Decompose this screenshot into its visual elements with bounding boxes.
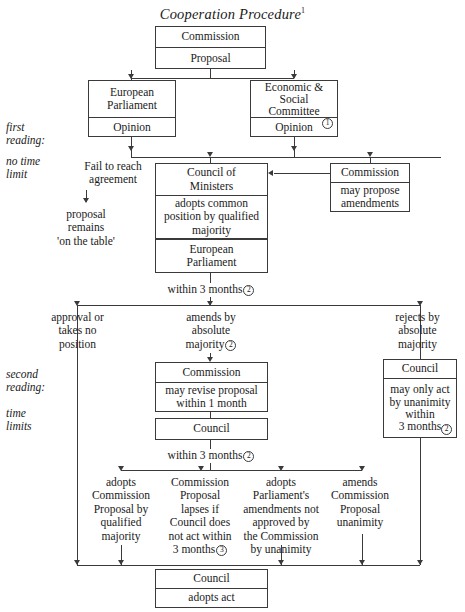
box-council-unanimity-header: Council <box>384 360 456 379</box>
arrow-ep-opinion-down <box>128 146 134 151</box>
arrow-bottom-outcome-4-in <box>359 560 365 565</box>
arrow-to-economic-social-committee <box>291 74 297 79</box>
arrow-bottom-outcome-1-in <box>118 560 124 565</box>
box-european-parliament-second: European Parliament <box>155 239 268 273</box>
arrow-to-european-parliament <box>128 74 134 79</box>
label-proposal-remains-on-the-table: proposal remains 'on the table' <box>36 208 136 248</box>
box-council-adopts-act-body: adopts act <box>156 589 267 607</box>
box-council-of-ministers-header: Council of Ministers <box>156 164 267 196</box>
title-footnote-marker: 1 <box>301 6 305 15</box>
connector-four-way-bus <box>121 470 362 471</box>
box-commission-amendments-body: may propose amendments <box>331 183 409 211</box>
label-outcome-proposal-lapses: Commission Proposal lapses if Council do… <box>157 476 243 556</box>
box-european-parliament-header: European Parliament <box>89 81 175 118</box>
arrow-bottom-right-in <box>417 560 423 565</box>
box-council-mid-header: Council <box>156 419 267 439</box>
footnote-circle-1-esc: 1 <box>322 118 333 129</box>
label-fail-to-reach-agreement: Fail to reach agreement <box>58 160 168 187</box>
arrow-branch-rejects <box>417 301 423 306</box>
margin-label-first-reading: first reading: <box>6 121 45 148</box>
box-commission-revise-header: Commission <box>156 363 267 383</box>
label-outcome-amends-commission-proposal: amends Commission Proposal unanimity <box>321 476 399 530</box>
arrow-fail-to-proposal-remains <box>83 198 89 203</box>
box-commission-amendments: Commission may propose amendments <box>330 163 410 212</box>
page-title: Cooperation Procedure1 <box>0 6 465 23</box>
box-council-adopts-act-header: Council <box>156 570 267 589</box>
connector-proposal-split <box>131 78 294 79</box>
label-amends-by-absolute-majority: amends by absolute majority2 <box>162 311 260 351</box>
esc-header-line: Economic & Social Committee <box>265 81 323 118</box>
box-council-of-ministers-body: adopts common position by qualified majo… <box>156 196 267 238</box>
box-commission-revise-body: may revise proposal within 1 month <box>156 383 267 411</box>
arrow-commission-to-council <box>268 170 273 176</box>
connector-commission-to-council <box>274 173 330 174</box>
box-european-parliament-second-header: European Parliament <box>156 240 267 272</box>
arrow-outcome-3 <box>278 466 284 471</box>
box-economic-social-committee-header: Economic & Social Committee <box>251 81 337 118</box>
box-council-mid: Council <box>155 418 268 440</box>
arrow-outcome-4 <box>359 466 365 471</box>
arrow-esc-opinion-down <box>291 146 297 151</box>
arrow-outcome-1 <box>118 466 124 471</box>
arrow-outcome-2 <box>198 466 204 471</box>
box-commission-proposal-header: Commission <box>156 27 265 48</box>
box-commission-proposal: Commission Proposal <box>155 26 266 69</box>
footnote-circle-2a: 2 <box>243 285 254 296</box>
box-commission-revise: Commission may revise proposal within 1 … <box>155 362 268 412</box>
connector-proposal-down <box>210 69 211 78</box>
connector-down-to-four-way <box>210 463 211 470</box>
arrow-bottom-left-in <box>74 560 80 565</box>
footnote-circle-2c: 2 <box>441 424 452 435</box>
box-commission-amendments-header: Commission <box>331 164 409 183</box>
margin-label-no-time-limit: no time limit <box>6 155 40 182</box>
arrow-branch-approval <box>74 301 80 306</box>
box-council-adopts-act: Council adopts act <box>155 569 268 608</box>
connector-three-way-bus <box>77 305 420 306</box>
label-approval-or-takes-no-position: approval or takes no position <box>30 311 125 351</box>
box-council-of-ministers: Council of Ministers adopts common posit… <box>155 163 268 239</box>
box-european-parliament-opinion-body: Opinion <box>89 118 175 137</box>
label-outcome-adopts-commission-proposal: adopts Commission Proposal by qualified … <box>83 476 159 543</box>
arrow-bus-to-council <box>207 152 213 157</box>
page-title-text: Cooperation Procedure <box>160 6 301 22</box>
label-rejects-by-absolute-majority: rejects by absolute majority <box>375 311 460 351</box>
box-european-parliament-opinion: European Parliament Opinion <box>88 80 176 137</box>
margin-label-time-limits: time limits <box>6 407 32 434</box>
connector-council-mid-down <box>210 440 211 449</box>
connector-ep2-down <box>210 273 211 283</box>
flowchart-canvas: Cooperation Procedure1 first reading: no… <box>0 0 465 612</box>
footnote-circle-2b: 2 <box>225 340 236 351</box>
connector-unanimity-down <box>420 438 421 565</box>
footnote-circle-2d: 2 <box>243 451 254 462</box>
margin-label-second-reading: second reading: <box>6 368 45 395</box>
connector-bottom-bus <box>77 565 420 566</box>
label-outcome-adopts-parliament-amendments: adopts Parliament's amendments not appro… <box>235 476 327 556</box>
label-within-3-months-second: within 3 months2 <box>140 449 282 462</box>
arrow-branch-amends <box>207 301 213 306</box>
arrow-bus-to-commission <box>367 152 373 157</box>
arrow-bottom-outcome-3-in <box>278 560 284 565</box>
connector-first-reading-bus <box>131 157 441 158</box>
box-commission-proposal-body: Proposal <box>156 48 265 69</box>
label-within-3-months-first: within 3 months2 <box>140 283 282 296</box>
footnote-circle-3: 3 <box>216 545 227 556</box>
